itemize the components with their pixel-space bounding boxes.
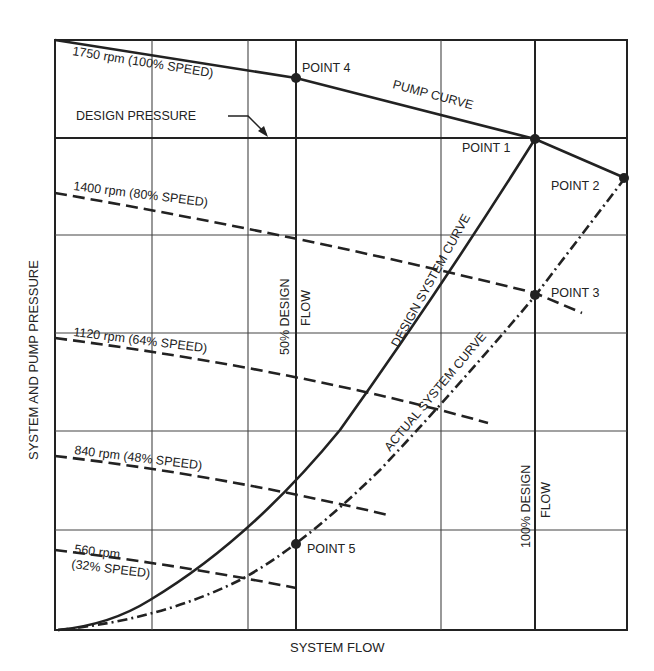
label-point-4: POINT 4 (302, 61, 350, 75)
label-point-1: POINT 1 (462, 141, 510, 155)
label-pump-curve: PUMP CURVE (391, 77, 475, 112)
label-flow-100-line1: 100% DESIGN (519, 465, 533, 548)
point-3-marker (530, 290, 540, 300)
curve-840rpm (55, 456, 388, 515)
label-speed-48: 840 rpm (48% SPEED) (74, 443, 203, 473)
label-flow-100-line2: FLOW (539, 482, 553, 518)
point-2-marker (619, 173, 629, 183)
x-axis-title: SYSTEM FLOW (290, 640, 385, 655)
pump-system-curve-chart: 1750 rpm (100% SPEED) DESIGN PRESSURE PU… (0, 0, 654, 671)
point-4-marker (291, 73, 301, 83)
label-speed-100: 1750 rpm (100% SPEED) (72, 44, 215, 80)
label-design-pressure: DESIGN PRESSURE (76, 109, 196, 123)
label-speed-32-line2: (32% SPEED) (71, 557, 151, 581)
label-point-2: POINT 2 (551, 179, 599, 193)
label-point-5: POINT 5 (307, 542, 355, 556)
point-1-marker (530, 134, 540, 144)
actual-system-curve (58, 178, 625, 630)
y-axis-title: SYSTEM AND PUMP PRESSURE (26, 260, 41, 460)
label-speed-80: 1400 rpm (80% SPEED) (73, 179, 209, 209)
label-speed-64: 1120 rpm (64% SPEED) (73, 325, 208, 355)
label-flow-50-line2: FLOW (299, 290, 313, 326)
label-flow-50-line1: 50% DESIGN (278, 279, 292, 355)
point-5-marker (291, 539, 301, 549)
curve-1400rpm (55, 193, 582, 313)
label-point-3: POINT 3 (551, 286, 599, 300)
label-design-system-curve: DESIGN SYSTEM CURVE (388, 212, 473, 350)
